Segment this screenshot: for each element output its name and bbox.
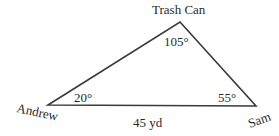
vertex-label-andrew: Andrew bbox=[15, 100, 60, 124]
vertex-label-sam: Sam bbox=[246, 109, 273, 131]
angle-label-left: 20° bbox=[74, 90, 92, 105]
angle-label-top: 105° bbox=[164, 34, 189, 49]
triangle-diagram: Trash Can 105° Andrew 20° Sam 55° 45 yd bbox=[0, 0, 279, 136]
vertex-label-trash-can: Trash Can bbox=[152, 2, 206, 17]
side-label-base: 45 yd bbox=[133, 115, 163, 130]
angle-label-right: 55° bbox=[218, 90, 236, 105]
